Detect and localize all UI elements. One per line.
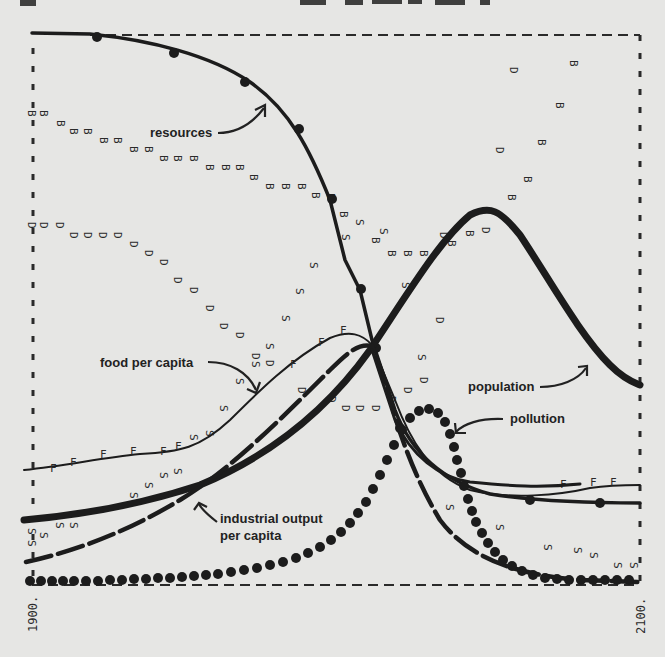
svg-text:B: B xyxy=(203,164,216,171)
svg-text:S: S xyxy=(37,532,50,539)
svg-text:D: D xyxy=(96,232,109,239)
svg-text:S: S xyxy=(279,315,292,322)
svg-text:S: S xyxy=(293,288,306,295)
svg-text:B: B xyxy=(233,164,246,171)
svg-text:D: D xyxy=(339,405,352,412)
label-population: population xyxy=(468,379,534,394)
cropped-title xyxy=(20,0,490,6)
svg-text:B: B xyxy=(369,237,382,244)
svg-text:D: D xyxy=(53,222,66,229)
svg-text:B: B xyxy=(337,211,350,218)
svg-text:D: D xyxy=(233,332,246,339)
svg-text:S: S xyxy=(263,343,276,350)
svg-text:S: S xyxy=(249,361,262,368)
svg-text:B: B xyxy=(309,192,322,199)
svg-text:D: D xyxy=(157,259,170,266)
svg-text:D: D xyxy=(25,222,38,229)
svg-text:S: S xyxy=(353,219,366,226)
svg-text:S: S xyxy=(127,492,140,499)
svg-text:B: B xyxy=(111,137,124,144)
svg-text:B: B xyxy=(295,183,308,190)
svg-text:B: B xyxy=(37,110,50,117)
svg-text:D: D xyxy=(263,360,276,367)
svg-text:F: F xyxy=(340,324,347,337)
svg-text:S: S xyxy=(53,522,66,529)
svg-text:B: B xyxy=(142,146,155,153)
svg-text:D: D xyxy=(249,353,262,360)
svg-text:D: D xyxy=(353,405,366,412)
svg-text:F: F xyxy=(70,456,77,469)
svg-text:F: F xyxy=(318,336,325,349)
svg-text:B: B xyxy=(417,250,430,257)
svg-text:D: D xyxy=(401,387,414,394)
world-model-chart: B B B B B B B B B B B B B B B B B B B B … xyxy=(0,0,665,657)
svg-text:B: B xyxy=(187,155,200,162)
svg-text:D: D xyxy=(127,241,140,248)
svg-text:F: F xyxy=(130,445,137,458)
svg-text:D: D xyxy=(142,250,155,257)
label-resources: resources xyxy=(150,125,212,140)
annotation-population: population xyxy=(468,366,587,394)
svg-text:D: D xyxy=(111,232,124,239)
svg-text:S: S xyxy=(415,354,428,361)
svg-text:S: S xyxy=(307,262,320,269)
svg-text:S: S xyxy=(67,522,80,529)
svg-text:F: F xyxy=(175,440,182,453)
svg-text:D: D xyxy=(203,305,216,312)
svg-text:S: S xyxy=(25,540,38,547)
label-food-per-capita: food per capita xyxy=(100,355,194,370)
x-tick-1900: 1900. xyxy=(26,596,40,632)
svg-text:B: B xyxy=(385,250,398,257)
svg-text:S: S xyxy=(233,378,246,385)
svg-text:S: S xyxy=(541,544,554,551)
resources-curve xyxy=(32,33,640,503)
svg-text:D: D xyxy=(217,323,230,330)
svg-text:S: S xyxy=(627,562,640,569)
svg-text:D: D xyxy=(81,232,94,239)
annotation-pollution: pollution xyxy=(455,411,565,433)
label-industrial-output: industrial output xyxy=(220,511,323,526)
svg-text:B: B xyxy=(97,137,110,144)
svg-text:F: F xyxy=(50,462,57,475)
svg-text:B: B xyxy=(279,183,292,190)
svg-text:S: S xyxy=(25,528,38,535)
label-pollution: pollution xyxy=(510,411,565,426)
svg-text:B: B xyxy=(171,155,184,162)
svg-text:B: B xyxy=(81,128,94,135)
svg-text:D: D xyxy=(417,377,430,384)
svg-text:B: B xyxy=(25,110,38,117)
svg-text:B: B xyxy=(67,128,80,135)
svg-text:D: D xyxy=(507,67,520,74)
svg-text:D: D xyxy=(369,405,382,412)
svg-text:B: B xyxy=(127,146,140,153)
svg-text:S: S xyxy=(611,562,624,569)
svg-text:S: S xyxy=(377,228,390,235)
x-tick-2100: 2100. xyxy=(634,598,648,634)
svg-text:B: B xyxy=(263,183,276,190)
svg-text:D: D xyxy=(171,277,184,284)
svg-text:B: B xyxy=(521,176,534,183)
svg-text:B: B xyxy=(219,164,232,171)
svg-text:D: D xyxy=(493,147,506,154)
svg-text:D: D xyxy=(67,232,80,239)
svg-text:B: B xyxy=(505,194,518,201)
svg-text:S: S xyxy=(187,434,200,441)
svg-text:F: F xyxy=(160,445,167,458)
svg-text:S: S xyxy=(571,547,584,554)
svg-text:B: B xyxy=(567,60,580,67)
svg-text:B: B xyxy=(463,230,476,237)
svg-text:D: D xyxy=(187,287,200,294)
svg-text:S: S xyxy=(443,504,456,511)
annotation-industrial-output: industrial output per capita xyxy=(194,503,323,543)
svg-text:D: D xyxy=(479,227,492,234)
svg-text:B: B xyxy=(535,139,548,146)
svg-text:B: B xyxy=(401,250,414,257)
svg-text:F: F xyxy=(290,358,297,371)
svg-text:D: D xyxy=(37,222,50,229)
svg-text:S: S xyxy=(142,482,155,489)
annotation-food-per-capita: food per capita xyxy=(100,355,260,393)
svg-text:B: B xyxy=(157,155,170,162)
svg-text:B: B xyxy=(247,174,260,181)
svg-text:D: D xyxy=(433,317,446,324)
svg-text:S: S xyxy=(493,524,506,531)
